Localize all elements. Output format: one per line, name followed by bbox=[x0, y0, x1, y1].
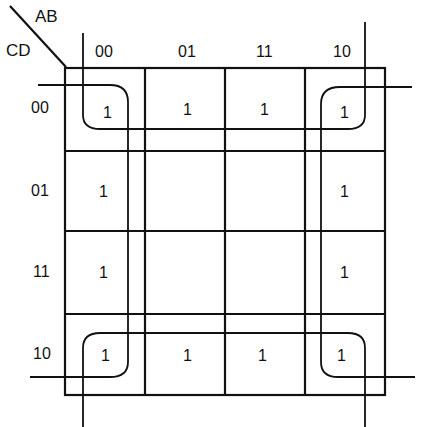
cell-r3-c2: 1 bbox=[258, 347, 267, 364]
row-variable-label: CD bbox=[6, 41, 31, 60]
grouping-loops bbox=[30, 22, 415, 427]
cell-r0-c1: 1 bbox=[183, 101, 192, 118]
map-grid bbox=[65, 68, 385, 395]
column-label-01: 01 bbox=[178, 43, 196, 60]
cell-r2-c0: 1 bbox=[99, 264, 108, 281]
column-label-11: 11 bbox=[256, 43, 273, 60]
cell-r1-c3: 1 bbox=[340, 183, 349, 200]
cell-r1-c0: 1 bbox=[99, 183, 108, 200]
row-label-00: 00 bbox=[31, 99, 49, 116]
column-label-10: 10 bbox=[333, 43, 351, 60]
row-label-10: 10 bbox=[33, 345, 51, 362]
cell-r0-c0: 1 bbox=[103, 104, 112, 121]
column-variable-label: AB bbox=[35, 7, 58, 26]
row-label-01: 01 bbox=[31, 182, 49, 199]
karnaugh-map: AB CD 00 01 11 10 00 01 11 10 1 1 1 1 1 bbox=[0, 0, 424, 427]
cell-r0-c3: 1 bbox=[340, 104, 349, 121]
cell-r3-c3: 1 bbox=[337, 347, 346, 364]
cell-r3-c1: 1 bbox=[183, 347, 192, 364]
row-label-11: 11 bbox=[33, 263, 50, 280]
cell-r0-c2: 1 bbox=[260, 101, 269, 118]
cell-r2-c3: 1 bbox=[340, 264, 349, 281]
cell-r3-c0: 1 bbox=[101, 347, 110, 364]
column-label-00: 00 bbox=[95, 43, 113, 60]
